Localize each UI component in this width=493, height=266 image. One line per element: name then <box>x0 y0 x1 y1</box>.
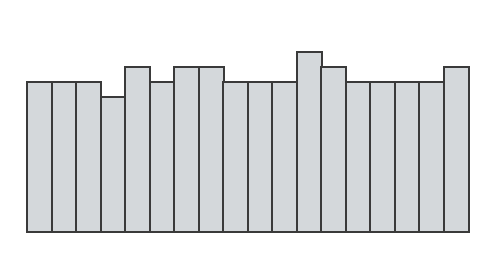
bar-18 <box>443 66 470 233</box>
bar-6 <box>149 81 176 233</box>
bar-5 <box>124 66 151 233</box>
bar-1 <box>26 81 53 233</box>
bar-17 <box>418 81 445 233</box>
bar-11 <box>271 81 298 233</box>
bar-16 <box>394 81 421 233</box>
bar-12 <box>296 51 323 233</box>
bar-2 <box>51 81 78 233</box>
bar-7 <box>173 66 200 233</box>
bar-13 <box>320 66 347 233</box>
bar-14 <box>345 81 372 233</box>
bar-15 <box>369 81 396 233</box>
bar-9 <box>222 81 249 233</box>
bar-10 <box>247 81 274 233</box>
bar-8 <box>198 66 225 233</box>
bar-3 <box>75 81 102 233</box>
bar-chart <box>26 0 467 233</box>
bar-4 <box>100 96 127 233</box>
